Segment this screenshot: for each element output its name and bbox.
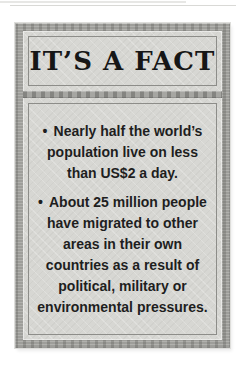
title-panel: IT’S A FACT bbox=[28, 36, 217, 86]
fact-text: About 25 million people bbox=[49, 194, 207, 210]
fact-text: Nearly half the world’s bbox=[54, 123, 203, 139]
fact-line: •Nearly half the world’s bbox=[29, 121, 216, 142]
fact-line: areas in their own bbox=[29, 234, 216, 255]
fact-line: than US$2 a day. bbox=[29, 163, 216, 184]
factbox-frame: IT’S A FACT •Nearly half the world’s pop… bbox=[15, 23, 230, 348]
fact-line: have migrated to other bbox=[29, 213, 216, 234]
fact-line: political, military or bbox=[29, 276, 216, 297]
bullet-icon: • bbox=[38, 192, 43, 213]
fact-line: population live on less bbox=[29, 142, 216, 163]
page: IT’S A FACT •Nearly half the world’s pop… bbox=[0, 0, 239, 376]
body-panel: •Nearly half the world’s population live… bbox=[28, 103, 217, 335]
fact-item-2: •About 25 million people have migrated t… bbox=[29, 192, 216, 318]
bullet-icon: • bbox=[43, 121, 48, 142]
fact-line: •About 25 million people bbox=[29, 192, 216, 213]
top-rule-line bbox=[0, 1, 186, 3]
ornamental-divider bbox=[23, 91, 222, 98]
top-rule-line-2 bbox=[10, 5, 236, 6]
factbox-title: IT’S A FACT bbox=[30, 46, 216, 76]
fact-line: countries as a result of bbox=[29, 255, 216, 276]
body-section: •Nearly half the world’s population live… bbox=[23, 98, 222, 340]
title-section: IT’S A FACT bbox=[23, 31, 222, 91]
factbox-inner: IT’S A FACT •Nearly half the world’s pop… bbox=[23, 31, 222, 340]
fact-line: environmental pressures. bbox=[29, 297, 216, 318]
fact-item-1: •Nearly half the world’s population live… bbox=[29, 121, 216, 184]
